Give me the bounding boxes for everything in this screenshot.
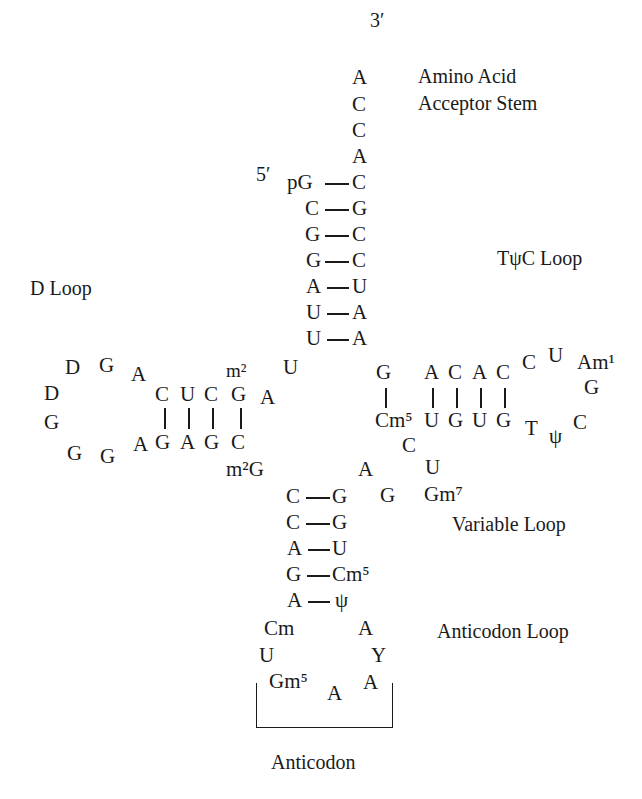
nucleotide: D [65,357,80,378]
nucleotide: T [525,418,538,439]
nucleotide: A [352,67,367,88]
nucleotide: A [131,364,146,385]
base-pair-bond [308,601,330,603]
base-pair-bond [325,235,349,237]
nucleotide: G [584,377,599,398]
nucleotide: C [522,352,536,373]
nucleotide: U [424,410,439,431]
nucleotide: A [358,459,373,480]
nucleotide: U [306,328,321,349]
nucleotide: Gm⁷ [424,484,463,505]
nucleotide: G [496,410,511,431]
nucleotide: Am¹ [577,352,615,373]
three-prime-label: 3′ [370,8,384,33]
base-pair-bond [327,339,349,341]
base-pair-bond [306,497,330,499]
nucleotide: A [287,538,302,559]
anticodon-loop-label: Anticodon Loop [437,619,569,644]
base-pair-bond [327,313,349,315]
nucleotide: A [472,362,487,383]
nucleotide: U [352,276,367,297]
base-pair-bond [212,408,214,429]
base-pair-bond [456,388,458,408]
base-pair-bond [480,388,482,408]
d-loop-label: D Loop [30,276,92,301]
base-pair-bond [504,388,506,408]
nucleotide: C [573,412,587,433]
nucleotide: Y [371,645,386,666]
nucleotide: A [306,276,321,297]
nucleotide: C [286,486,300,507]
nucleotide: C [496,362,510,383]
nucleotide: G [204,432,219,453]
nucleotide: G [305,224,320,245]
nucleotide: G [44,412,59,433]
base-pair-bond [432,388,434,408]
nucleotide: G [155,432,170,453]
nucleotide: Cm⁵ [332,564,370,585]
variable-loop-label: Variable Loop [452,512,566,537]
nucleotide: U [259,645,274,666]
nucleotide: C [448,362,462,383]
nucleotide: C [352,94,366,115]
base-pair-bond [307,575,330,577]
nucleotide: G [376,362,391,383]
nucleotide: G [448,410,463,431]
nucleotide: A [352,328,367,349]
nucleotide: D [44,383,59,404]
nucleotide: G [286,564,301,585]
nucleotide: U [332,538,347,559]
nucleotide: A [424,362,439,383]
nucleotide: C [402,435,416,456]
nucleotide: U [283,357,298,378]
amino-acid-label: Amino Acid [418,64,516,89]
nucleotide: C [352,224,366,245]
nucleotide: U [425,457,440,478]
nucleotide: G [100,446,115,467]
nucleotide: G [332,486,347,507]
nucleotide: A [352,146,367,167]
base-pair-bond [164,408,166,429]
nucleotide: G [99,355,114,376]
nucleotide: C [352,250,366,271]
nucleotide: U [548,345,563,366]
nucleotide: C [352,172,366,193]
base-pair-bond [240,408,242,429]
nucleotide: A [180,432,195,453]
nucleotide: G [306,250,321,271]
base-pair-bond [325,183,349,185]
anticodon-bracket [256,683,393,728]
nucleotide: Cm [264,618,294,639]
nucleotide: U [472,410,487,431]
base-pair-bond [325,261,349,263]
nucleotide: C [352,120,366,141]
base-pair-bond [385,388,387,408]
nucleotide: U [306,302,321,323]
nucleotide: G [231,384,246,405]
nucleotide: m²G [226,459,264,480]
nucleotide: C [204,384,218,405]
tpsic-loop-label: TψC Loop [497,246,582,271]
nucleotide: A [287,590,302,611]
nucleotide: C [305,198,319,219]
nucleotide: C [155,384,169,405]
nucleotide: G [332,512,347,533]
anticodon-label: Anticodon [271,750,355,775]
nucleotide: A [358,618,373,639]
nucleotide: A [260,387,275,408]
nucleotide: A [352,302,367,323]
base-pair-bond [308,549,330,551]
nucleotide: ψ [549,426,562,447]
modification-label: m² [226,361,246,380]
base-pair-bond [325,209,349,211]
base-pair-bond [327,287,349,289]
base-pair-bond [306,523,330,525]
nucleotide: C [286,512,300,533]
nucleotide: G [352,198,367,219]
base-pair-bond [188,408,190,429]
five-prime-label: 5′ [256,162,270,187]
nucleotide: ψ [335,590,348,611]
nucleotide: Cm⁵ [375,410,413,431]
nucleotide: A [133,434,148,455]
nucleotide: G [67,443,82,464]
